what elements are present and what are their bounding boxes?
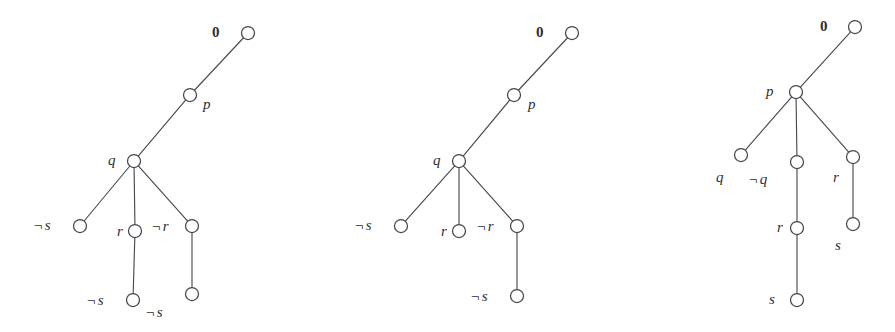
node-label-t1-n2: q <box>108 153 116 168</box>
tree-node-circle[interactable] <box>395 220 408 233</box>
node-label-text: s <box>45 217 51 233</box>
negation-icon: ¬ <box>146 304 157 320</box>
tree-1-nodes <box>74 27 255 307</box>
tree-edges-and-nodes-canvas <box>0 0 895 332</box>
node-label-text: 0 <box>212 24 220 40</box>
negation-icon: ¬ <box>87 292 98 308</box>
node-label-text: r <box>441 223 447 239</box>
tree-node-circle[interactable] <box>186 288 199 301</box>
node-label-text: r <box>117 223 123 239</box>
negation-icon: ¬ <box>152 218 163 234</box>
tree-node-circle[interactable] <box>791 294 804 307</box>
tree-node-circle[interactable] <box>242 27 255 40</box>
node-label-t3-n7: s <box>769 292 775 307</box>
tree-edge <box>800 32 850 87</box>
node-label-text: q <box>760 171 768 187</box>
node-label-t3-n0: 0 <box>820 19 828 34</box>
tree-3-nodes <box>735 21 862 307</box>
tree-node-circle[interactable] <box>847 151 860 164</box>
negation-icon: ¬ <box>355 217 366 233</box>
tree-edge <box>463 100 510 156</box>
node-label-text: 0 <box>536 24 544 40</box>
node-label-t2-n4: r <box>441 224 447 239</box>
node-label-t2-n3: ¬s <box>355 218 372 233</box>
node-label-text: p <box>203 96 211 112</box>
node-label-t1-n5: ¬r <box>152 219 169 234</box>
tree-edge <box>138 166 187 221</box>
node-label-text: s <box>366 217 372 233</box>
tree-node-circle[interactable] <box>511 290 524 303</box>
tree-node-circle[interactable] <box>791 222 804 235</box>
node-label-text: q <box>716 169 724 185</box>
node-label-t2-n1: p <box>528 97 536 112</box>
node-label-text: q <box>433 152 441 168</box>
node-label-text: s <box>769 291 775 307</box>
tree-node-circle[interactable] <box>847 218 860 231</box>
node-label-t1-n4: r <box>117 224 123 239</box>
node-label-text: 0 <box>820 18 828 34</box>
negation-icon: ¬ <box>34 217 45 233</box>
node-label-text: s <box>98 292 104 308</box>
tree-edge <box>138 100 186 156</box>
node-label-t3-n6: s <box>835 238 841 253</box>
tree-edge <box>194 38 243 91</box>
node-label-t3-n4: r <box>833 170 839 185</box>
node-label-t3-n5: r <box>777 220 783 235</box>
tree-node-circle[interactable] <box>127 294 140 307</box>
tree-node-circle[interactable] <box>184 89 197 102</box>
tree-node-circle[interactable] <box>129 225 142 238</box>
tree-edge <box>796 99 797 156</box>
tree-node-circle[interactable] <box>453 225 466 238</box>
node-label-text: s <box>157 304 163 320</box>
node-label-t2-n2: q <box>433 153 441 168</box>
tree-node-circle[interactable] <box>791 156 804 169</box>
node-label-text: p <box>766 83 774 99</box>
tree-node-circle[interactable] <box>790 86 803 99</box>
tree-node-circle[interactable] <box>453 155 466 168</box>
node-label-t3-n2: q <box>716 170 724 185</box>
tree-node-circle[interactable] <box>74 220 87 233</box>
node-label-text: s <box>835 237 841 253</box>
tree-edge <box>134 168 135 225</box>
tree-edge <box>405 166 454 221</box>
tree-edge <box>133 238 135 294</box>
node-label-t3-n3: ¬q <box>749 172 767 187</box>
negation-icon: ¬ <box>749 171 760 187</box>
tree-edge <box>463 166 512 221</box>
node-label-text: r <box>488 218 494 234</box>
node-label-t1-n0: 0 <box>212 25 220 40</box>
tree-node-circle[interactable] <box>849 21 862 34</box>
tree-node-circle[interactable] <box>735 149 748 162</box>
node-label-text: r <box>777 219 783 235</box>
negation-icon: ¬ <box>471 288 482 304</box>
tree-node-circle[interactable] <box>186 220 199 233</box>
node-label-t1-n1: p <box>203 97 211 112</box>
tree-edge <box>84 166 130 221</box>
tree-2-edges <box>405 38 567 290</box>
tree-edge <box>800 97 848 152</box>
node-label-text: s <box>482 288 488 304</box>
node-label-t2-n5: ¬r <box>477 219 494 234</box>
tree-edge <box>518 38 567 91</box>
node-label-text: r <box>163 218 169 234</box>
node-label-t1-n6: ¬s <box>87 293 104 308</box>
tableau-figure: 0pq¬sr¬r¬s¬s0pq¬sr¬r¬s0pq¬qrrss <box>0 0 895 332</box>
negation-icon: ¬ <box>477 218 488 234</box>
node-label-t3-n1: p <box>766 84 774 99</box>
tree-2-nodes <box>395 27 579 303</box>
node-label-t1-n7: ¬s <box>146 305 163 320</box>
node-label-t1-n3: ¬s <box>34 218 51 233</box>
node-label-text: p <box>528 96 536 112</box>
node-label-text: r <box>833 169 839 185</box>
node-label-text: q <box>108 152 116 168</box>
tree-node-circle[interactable] <box>566 27 579 40</box>
tree-node-circle[interactable] <box>511 220 524 233</box>
tree-node-circle[interactable] <box>508 89 521 102</box>
node-label-t2-n0: 0 <box>536 25 544 40</box>
tree-edge <box>745 97 791 150</box>
tree-node-circle[interactable] <box>128 155 141 168</box>
node-label-t2-n6: ¬s <box>471 289 488 304</box>
